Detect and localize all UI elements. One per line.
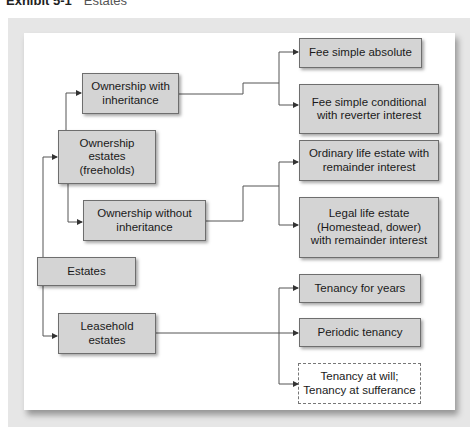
node-periodic-tenancy: Periodic tenancy (299, 318, 421, 347)
node-leasehold-estates: Leasehold estates (58, 313, 156, 354)
node-tenancy-at-will: Tenancy at will; Tenancy at sufferance (298, 363, 421, 404)
node-ownership-estates: Ownership estates (freeholds) (58, 130, 156, 184)
node-ordinary-life-estate: Ordinary life estate with remainder inte… (299, 140, 439, 181)
node-ownership-without-inheritance: Ownership without inheritance (83, 200, 206, 241)
node-tenancy-for-years: Tenancy for years (299, 274, 421, 303)
node-fee-simple-absolute: Fee simple absolute (299, 38, 422, 68)
node-fee-simple-conditional: Fee simple conditional with reverter int… (299, 84, 439, 134)
node-ownership-with-inheritance: Ownership with inheritance (82, 73, 179, 114)
node-estates: Estates (37, 257, 136, 286)
node-legal-life-estate: Legal life estate (Homestead, dower) wit… (299, 197, 439, 258)
